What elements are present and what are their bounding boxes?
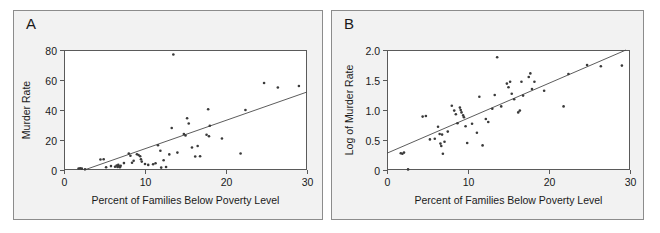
data-point <box>425 115 428 118</box>
panel-b: B 010203000.51.01.52.0Percent of Familie… <box>331 10 644 220</box>
data-point <box>442 153 445 156</box>
data-point <box>81 167 84 170</box>
y-tick-label: 0 <box>51 165 57 177</box>
data-point <box>438 133 441 136</box>
data-point <box>460 111 463 114</box>
data-point <box>407 168 410 171</box>
data-point <box>184 134 187 137</box>
data-point <box>429 138 432 141</box>
data-point <box>144 163 147 166</box>
data-point <box>529 72 532 75</box>
data-point <box>464 125 467 128</box>
data-point <box>191 146 194 149</box>
data-point <box>160 166 163 169</box>
data-point <box>168 153 171 156</box>
data-point <box>139 155 142 158</box>
data-point <box>522 94 525 97</box>
data-point <box>159 150 162 153</box>
data-point <box>621 64 624 67</box>
y-tick-label: 0.5 <box>365 135 380 147</box>
plot-background <box>64 50 307 170</box>
data-point <box>105 166 108 169</box>
x-tick-label: 30 <box>625 176 637 188</box>
data-point <box>485 118 488 121</box>
data-point <box>129 154 132 157</box>
data-point <box>463 116 466 119</box>
data-point <box>244 109 247 112</box>
data-point <box>128 152 131 155</box>
y-axis-title: Log of Murder Rate <box>343 65 355 156</box>
figure-container: A 0102030020406080Percent of Families Be… <box>0 0 660 233</box>
y-tick-label: 80 <box>45 45 57 57</box>
data-point <box>221 137 224 140</box>
panel-b-svg: 010203000.51.01.52.0Percent of Families … <box>332 11 645 221</box>
data-point <box>600 65 603 68</box>
data-point <box>471 123 474 126</box>
data-point <box>119 165 122 168</box>
data-point <box>165 166 168 169</box>
data-point <box>562 105 565 108</box>
y-axis-title: Murder Rate <box>20 81 32 140</box>
data-point <box>496 56 499 59</box>
data-point <box>476 132 479 135</box>
x-axis-title: Percent of Families Below Poverty Level <box>415 194 603 206</box>
plot-background <box>387 50 630 170</box>
y-tick-label: 1.0 <box>365 105 380 117</box>
data-point <box>500 105 503 108</box>
x-tick-label: 20 <box>221 176 233 188</box>
x-tick-label: 10 <box>140 176 152 188</box>
data-point <box>84 168 87 171</box>
data-point <box>187 122 190 125</box>
data-point <box>527 76 530 79</box>
data-point <box>507 86 510 89</box>
y-tick-label: 60 <box>45 75 57 87</box>
data-point <box>481 144 484 147</box>
data-point <box>520 81 523 84</box>
data-point <box>456 122 459 125</box>
data-point <box>147 164 150 167</box>
data-point <box>298 85 301 88</box>
data-point <box>123 162 126 165</box>
panel-a-plot: 0102030020406080Percent of Families Belo… <box>14 11 322 219</box>
data-point <box>491 108 494 111</box>
data-point <box>440 145 443 148</box>
panel-b-plot: 010203000.51.01.52.0Percent of Families … <box>332 11 643 219</box>
data-point <box>152 163 155 166</box>
y-tick-label: 0 <box>374 165 380 177</box>
data-point <box>277 86 280 89</box>
data-point <box>531 88 534 91</box>
data-point <box>140 160 143 163</box>
data-point <box>263 82 266 85</box>
data-point <box>567 73 570 76</box>
data-point <box>441 133 444 136</box>
data-point <box>157 144 160 147</box>
data-point <box>199 155 202 158</box>
data-point <box>439 142 442 145</box>
data-point <box>154 162 157 165</box>
data-point <box>186 117 189 120</box>
x-tick-label: 0 <box>385 176 391 188</box>
data-point <box>478 96 481 99</box>
x-tick-label: 0 <box>62 176 68 188</box>
data-point <box>194 155 197 158</box>
data-point <box>208 135 211 138</box>
data-point <box>162 159 165 162</box>
data-point <box>421 115 424 118</box>
data-point <box>466 142 469 145</box>
panel-a-svg: 0102030020406080Percent of Families Belo… <box>14 11 324 221</box>
data-point <box>451 105 454 108</box>
data-point <box>443 141 446 144</box>
x-tick-label: 20 <box>544 176 556 188</box>
data-point <box>99 158 102 161</box>
data-point <box>493 94 496 97</box>
data-point <box>446 130 449 133</box>
data-point <box>140 158 143 161</box>
data-point <box>509 81 512 84</box>
x-tick-label: 10 <box>463 176 475 188</box>
data-point <box>506 82 509 85</box>
data-point <box>533 81 536 84</box>
data-point <box>170 127 173 130</box>
x-axis-title: Percent of Families Below Poverty Level <box>92 194 280 206</box>
data-point <box>131 162 134 165</box>
y-tick-label: 40 <box>45 105 57 117</box>
